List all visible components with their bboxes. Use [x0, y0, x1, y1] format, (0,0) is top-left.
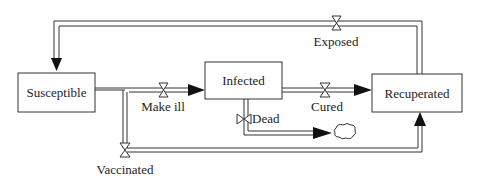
arrowhead-cured-icon [354, 84, 372, 96]
stock-recuperated[interactable]: Recuperated [372, 74, 462, 112]
cloud-sink-icon [334, 124, 355, 139]
valve-exposed-icon[interactable] [332, 16, 341, 30]
flow-label-vaccinated: Vaccinated [96, 162, 154, 177]
arrowhead-exposed-icon [51, 58, 62, 71]
flow-label-make-ill: Make ill [141, 99, 185, 114]
arrowhead-dead-icon [313, 127, 332, 139]
flow-label-exposed: Exposed [314, 34, 359, 49]
valve-vaccinated-icon[interactable] [120, 143, 130, 157]
valve-make-ill-icon[interactable] [159, 83, 168, 97]
valve-cured-icon[interactable] [320, 83, 330, 97]
stock-susceptible[interactable]: Susceptible [18, 73, 95, 112]
flow-label-cured: Cured [311, 99, 343, 114]
stock-label-susceptible: Susceptible [27, 85, 87, 100]
arrowhead-make-ill-icon [188, 84, 205, 96]
arrowhead-vaccinated-icon [414, 112, 426, 126]
stock-infected[interactable]: Infected [205, 62, 282, 99]
stock-label-recuperated: Recuperated [385, 86, 450, 101]
flow-pipe-make-ill [95, 88, 190, 92]
flow-label-dead: Dead [252, 111, 280, 126]
flow-pipe-cured [282, 88, 356, 92]
stock-label-infected: Infected [222, 73, 265, 88]
stock-flow-diagram: Exposed Make ill Vaccinated Cured [0, 0, 478, 183]
